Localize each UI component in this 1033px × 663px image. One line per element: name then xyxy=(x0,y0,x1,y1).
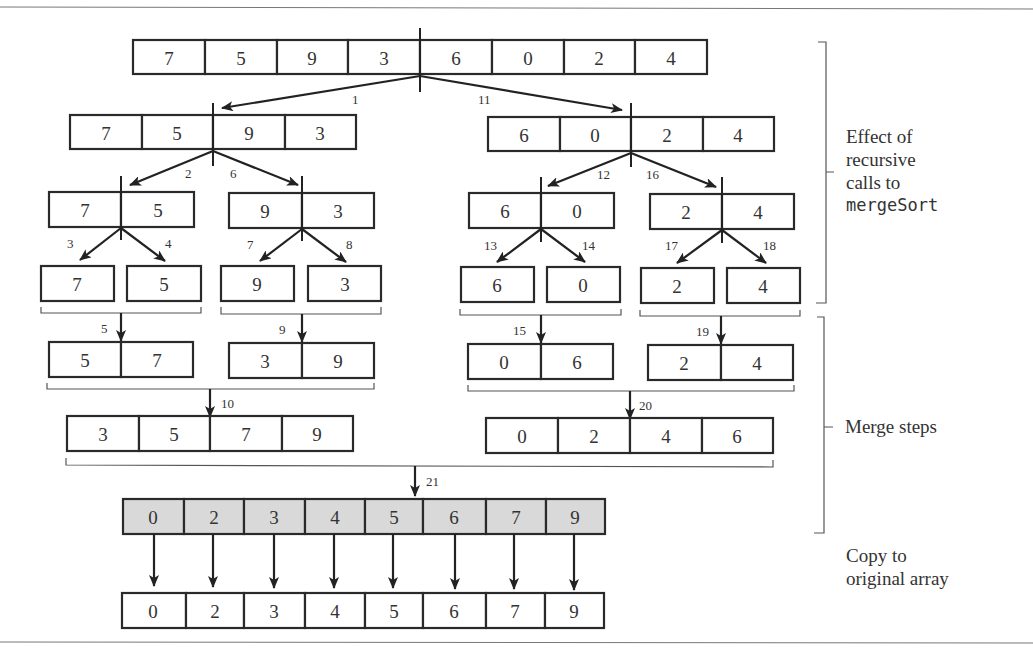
merge-bracket xyxy=(41,307,201,313)
cell-value: 9 xyxy=(244,123,254,144)
step-label: 9 xyxy=(279,322,286,337)
step-label: 12 xyxy=(597,167,610,182)
cell-value: 3 xyxy=(333,201,343,222)
cell-value: 0 xyxy=(148,507,158,528)
step-label: 5 xyxy=(101,321,108,336)
cell-value: 5 xyxy=(80,350,90,371)
cell-value: 7 xyxy=(511,507,521,528)
cell-value: 5 xyxy=(169,424,179,445)
cell-value: 2 xyxy=(209,507,219,528)
copy-arrows xyxy=(154,534,574,590)
label-line: Effect of xyxy=(846,125,938,148)
cell-value: 5 xyxy=(389,507,399,528)
cell-value: 0 xyxy=(578,275,588,296)
cell-value: 0 xyxy=(590,125,600,146)
step-label: 8 xyxy=(346,237,353,252)
cell-value: 2 xyxy=(672,276,682,297)
merge-steps-bracket xyxy=(814,317,833,533)
cell-value: 4 xyxy=(330,507,340,528)
step-label: 16 xyxy=(646,167,660,182)
cell-value: 6 xyxy=(449,601,459,622)
cell-value: 2 xyxy=(679,353,689,374)
cell-value: 6 xyxy=(492,275,502,296)
step-label: 2 xyxy=(185,166,192,181)
singleton-arrays: 7 5 9 3 6 0 2 4 xyxy=(41,266,800,303)
cell-value: 9 xyxy=(307,48,317,69)
cell-value: 5 xyxy=(236,48,246,69)
merge-bracket xyxy=(221,307,381,314)
cell-value: 2 xyxy=(594,48,604,69)
recursive-calls-label: Effect of recursive calls to mergeSort xyxy=(846,125,938,217)
merge-steps-label: Merge steps xyxy=(845,415,937,438)
step-label: 21 xyxy=(426,474,439,489)
cell-value: 2 xyxy=(662,125,672,146)
cell-value: 6 xyxy=(519,125,529,146)
call-arrow-7 xyxy=(260,229,302,261)
cell-value: 3 xyxy=(98,424,108,445)
cell-value: 4 xyxy=(733,125,743,146)
label-line: recursive xyxy=(846,148,938,171)
temp-array: 0 2 3 4 5 6 7 9 xyxy=(123,499,605,534)
cell-value: 7 xyxy=(164,48,174,69)
cell-value: 7 xyxy=(101,123,111,144)
cell-value: 3 xyxy=(269,601,279,622)
call-arrow-4 xyxy=(121,228,165,261)
cell-value: 0 xyxy=(572,201,582,222)
step-label: 11 xyxy=(478,92,491,107)
cell-value: 4 xyxy=(330,601,340,622)
cell-value: 6 xyxy=(732,426,742,447)
step-label: 10 xyxy=(221,396,234,411)
cell-value: 5 xyxy=(159,274,169,295)
label-line: Copy to xyxy=(846,544,949,567)
bottom-rule xyxy=(0,642,1033,643)
step-label: 3 xyxy=(67,236,74,251)
merge-bracket xyxy=(66,458,773,467)
cell-value: 0 xyxy=(517,426,527,447)
cell-value: 4 xyxy=(752,353,762,374)
cell-value: 6 xyxy=(500,201,510,222)
call-arrow-8 xyxy=(302,229,346,262)
cell-value: 6 xyxy=(451,48,461,69)
final-array: 0 2 3 4 5 6 7 9 xyxy=(122,593,604,628)
cell-value: 7 xyxy=(510,601,520,622)
cell-value: 0 xyxy=(499,352,509,373)
cell-value: 9 xyxy=(333,351,343,372)
cell-value: 6 xyxy=(572,352,582,373)
step-label: 18 xyxy=(763,238,776,253)
label-line: calls to xyxy=(846,171,938,194)
step-label: 4 xyxy=(165,236,172,251)
call-arrow-12 xyxy=(548,153,631,186)
top-rule xyxy=(0,7,1033,9)
function-name: mergeSort xyxy=(846,194,938,217)
merged-right-half: 0 2 4 6 xyxy=(486,418,773,453)
cell-value: 5 xyxy=(153,200,163,221)
call-arrow-11 xyxy=(420,76,622,110)
call-arrow-14 xyxy=(541,229,585,262)
cell-value: 5 xyxy=(389,601,399,622)
step-label: 1 xyxy=(352,92,359,107)
step-label: 7 xyxy=(247,237,254,252)
step-label: 19 xyxy=(696,324,709,339)
call-arrow-3 xyxy=(80,228,121,260)
cell-value: 3 xyxy=(269,507,279,528)
cell-value: 9 xyxy=(252,274,262,295)
cell-value: 2 xyxy=(589,426,599,447)
copy-label: Copy to original array xyxy=(846,544,949,590)
call-arrow-1 xyxy=(222,76,420,108)
step-label: 20 xyxy=(639,398,652,413)
cell-value: 7 xyxy=(80,200,90,221)
step-label: 17 xyxy=(665,238,679,253)
recursive-calls-bracket xyxy=(816,42,834,303)
step-label: 13 xyxy=(484,238,497,253)
call-arrow-17 xyxy=(677,230,722,263)
cell-value: 7 xyxy=(241,424,251,445)
cell-value: 3 xyxy=(379,48,389,69)
step-label: 14 xyxy=(582,238,596,253)
merge-bracket xyxy=(460,309,621,315)
cell-value: 9 xyxy=(260,201,270,222)
call-arrow-18 xyxy=(722,230,766,263)
cell-value: 9 xyxy=(570,507,580,528)
cell-value: 2 xyxy=(210,601,220,622)
merge-bracket xyxy=(468,385,794,391)
step-label: 15 xyxy=(513,323,526,338)
